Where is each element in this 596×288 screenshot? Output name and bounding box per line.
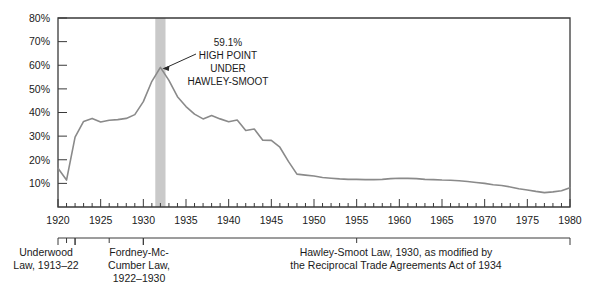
y-axis-tick-label: 60% [29, 59, 50, 71]
caption-text-line: 1922–1930 [113, 272, 166, 284]
x-axis-tick-label: 1945 [260, 214, 284, 226]
x-axis-tick-label: 1930 [132, 214, 156, 226]
y-axis-tick-label: 40% [29, 106, 50, 118]
tariff-rate-line-chart: 10%20%30%40%50%60%70%80% 192019251930193… [0, 0, 596, 288]
shaded-band-layer [155, 18, 165, 207]
caption-text-line: Hawley-Smoot Law, 1930, as modified by [300, 246, 493, 258]
annotation-line: HIGH POINT [199, 50, 257, 61]
y-axis-tick-label: 20% [29, 154, 50, 166]
annotation-line: UNDER [210, 63, 246, 74]
y-axis-tick-label: 50% [29, 83, 50, 95]
y-axis-tick-label: 70% [29, 35, 50, 47]
y-axis-tick-label: 80% [29, 12, 50, 24]
x-axis-tick-label: 1970 [473, 214, 497, 226]
caption-text-line: Fordney-Mc- [109, 246, 169, 258]
chart-container: 10%20%30%40%50%60%70%80% 192019251930193… [0, 0, 596, 288]
x-axis-tick-label: 1980 [558, 214, 582, 226]
caption-text-line: Underwood [19, 246, 73, 258]
x-axis-tick-label: 1940 [217, 214, 241, 226]
y-axis-tick-label: 30% [29, 130, 50, 142]
x-axis-tick-label: 1925 [89, 214, 113, 226]
hawley-smoot-band [155, 18, 165, 207]
x-axis-tick-label: 1975 [516, 214, 540, 226]
y-axis-tick-label: 10% [29, 177, 50, 189]
caption-text-line: the Reciprocal Trade Agreements Act of 1… [290, 259, 501, 271]
x-axis-tick-label: 1965 [430, 214, 454, 226]
annotation-line: 59.1% [214, 37, 242, 48]
chart-background [0, 0, 596, 288]
x-axis-tick-label: 1935 [174, 214, 198, 226]
caption-text-line: Law, 1913–22 [13, 259, 79, 271]
x-axis-tick-label: 1955 [345, 214, 369, 226]
annotation-line: HAWLEY-SMOOT [188, 76, 269, 87]
x-axis-tick-label: 1960 [388, 214, 412, 226]
x-axis-tick-label: 1920 [46, 214, 70, 226]
caption-text-line: Cumber Law, [108, 259, 170, 271]
x-axis-tick-label: 1950 [302, 214, 326, 226]
